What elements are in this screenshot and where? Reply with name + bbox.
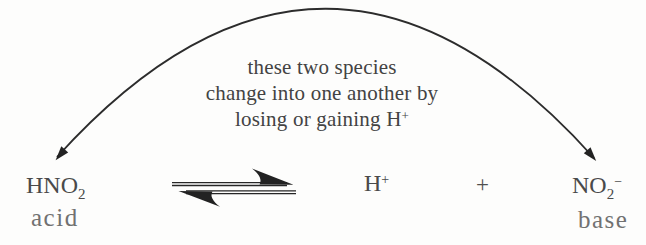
reverse-arrow-icon	[179, 191, 297, 207]
annotation-h-plus-superscript: +	[402, 108, 410, 123]
acid-label: acid	[31, 205, 79, 231]
plus-operator: +	[476, 172, 489, 198]
annotation-line-1: these two species	[166, 54, 478, 80]
base-label: base	[578, 207, 628, 233]
annotation-line-3: losing or gaining H+	[166, 106, 478, 132]
annotation-text: these two species change into one anothe…	[166, 54, 478, 132]
no2-minus-superscript: −	[614, 174, 622, 189]
product-formula-h-plus: H+	[364, 170, 389, 196]
equilibrium-arrow-icon	[172, 169, 296, 207]
reactant-subscript: 2	[78, 186, 86, 202]
forward-arrow-icon	[172, 169, 294, 186]
h-plus-superscript: +	[381, 172, 389, 187]
reactant-formula-hno2: HNO2	[26, 172, 86, 198]
curved-arrow-left-arrowhead-icon	[56, 146, 69, 160]
product-formula-no2-minus: NO2−	[572, 172, 622, 198]
annotation-line-2: change into one another by	[166, 80, 478, 106]
chemistry-diagram: these two species change into one anothe…	[0, 0, 646, 245]
